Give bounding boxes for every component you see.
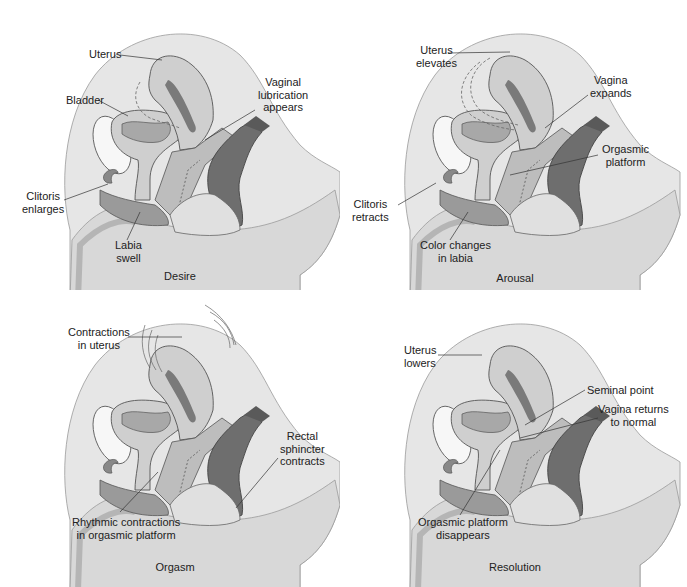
- panel-orgasm: Contractions in uterus Rectal sphincter …: [0, 290, 340, 587]
- panel-arousal: Uterus elevates Vagina expands Orgasmic …: [340, 0, 680, 290]
- panel-desire: Uterus Bladder Vaginal lubrication appea…: [0, 0, 340, 290]
- label-contractions-uterus: Contractions in uterus: [68, 326, 130, 351]
- label-clitoris: Clitoris enlarges: [22, 190, 64, 215]
- label-uterus-lowers: Uterus lowers: [404, 344, 436, 369]
- caption-desire: Desire: [120, 270, 240, 282]
- caption-resolution: Resolution: [455, 561, 575, 573]
- label-labia: Labia swell: [115, 239, 142, 264]
- label-vaginal-lubrication: Vaginal lubrication appears: [258, 76, 308, 114]
- label-uterus: Uterus: [89, 48, 121, 61]
- label-vagina-expands: Vagina expands: [590, 74, 632, 99]
- caption-orgasm: Orgasm: [115, 561, 235, 573]
- caption-arousal: Arousal: [455, 272, 575, 284]
- label-uterus-elevates: Uterus elevates: [416, 44, 457, 69]
- resolution-illustration: [340, 290, 687, 587]
- label-color-changes-labia: Color changes in labia: [420, 239, 491, 264]
- label-seminal-point: Seminal point: [587, 384, 654, 397]
- desire-illustration: [0, 0, 340, 290]
- label-platform-disappears: Orgasmic platform disappears: [418, 516, 508, 541]
- label-vagina-returns: Vagina returns to normal: [598, 403, 669, 428]
- label-orgasmic-platform: Orgasmic platform: [602, 143, 649, 168]
- label-clitoris-retracts: Clitoris retracts: [352, 198, 389, 223]
- panel-resolution: Uterus lowers Seminal point Vagina retur…: [340, 290, 680, 587]
- label-rectal-sphincter: Rectal sphincter contracts: [280, 430, 325, 468]
- label-rhythmic-contractions: Rhythmic contractions in orgasmic platfo…: [72, 516, 180, 541]
- label-bladder: Bladder: [66, 94, 104, 107]
